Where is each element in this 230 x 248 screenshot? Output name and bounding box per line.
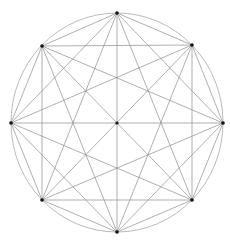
chord-top-lower-right — [117, 13, 192, 200]
chord-upper-right-upper-left — [42, 45, 192, 46]
vertex-bottom — [115, 230, 119, 234]
chord-right-lower-left — [42, 123, 223, 200]
vertex-lower-left — [40, 198, 44, 202]
vertex-top — [115, 11, 119, 15]
vertex-right — [221, 121, 225, 125]
chord-right-upper-left — [42, 46, 223, 123]
vertex-lower-right — [190, 198, 194, 202]
center-point — [115, 121, 118, 124]
chord-bottom-upper-left — [42, 46, 117, 232]
vertex-upper-right — [190, 43, 194, 47]
chord-upper-right-left — [11, 45, 192, 123]
chord-upper-right-bottom — [117, 45, 192, 232]
complete-graph-diagram — [0, 0, 230, 248]
vertex-left — [9, 121, 13, 125]
chord-lower-right-left — [11, 123, 192, 200]
vertex-upper-left — [40, 44, 44, 48]
chord-upper-right-right — [192, 45, 223, 123]
